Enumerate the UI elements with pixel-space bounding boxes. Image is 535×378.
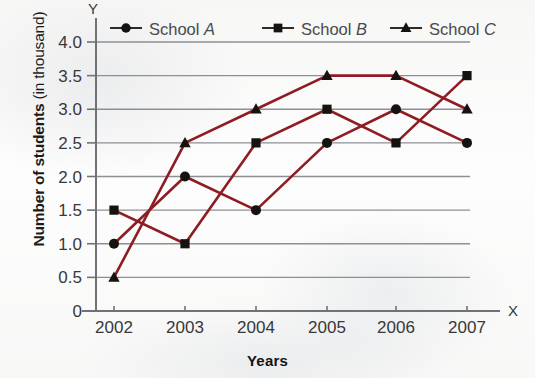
y-tick-label: 1.5 bbox=[58, 201, 82, 220]
legend-label-series-letter: C bbox=[484, 20, 496, 38]
legend-label: School A bbox=[149, 20, 215, 38]
x-axis-letter: X bbox=[508, 302, 518, 319]
legend-label-prefix: School bbox=[429, 20, 484, 38]
marker-triangle bbox=[108, 271, 119, 281]
marker-square bbox=[274, 24, 283, 33]
marker-square bbox=[462, 71, 471, 80]
y-axis-title-regular: (in thousand) bbox=[30, 12, 47, 100]
legend-item-square: School B bbox=[262, 20, 367, 38]
marker-circle bbox=[109, 239, 119, 249]
legend-label: School B bbox=[301, 20, 367, 38]
legend-item-circle: School A bbox=[110, 20, 215, 38]
x-tick-label: 2005 bbox=[308, 318, 346, 337]
line-chart: 00.51.01.52.02.53.03.54.0 20022003200420… bbox=[0, 0, 535, 378]
legend-label-prefix: School bbox=[301, 20, 356, 38]
data-series bbox=[108, 70, 472, 282]
marker-square bbox=[251, 138, 260, 147]
chart-legend: School ASchool BSchool C bbox=[110, 20, 496, 38]
x-axis-tick-labels: 200220032004200520062007 bbox=[95, 318, 486, 337]
marker-square bbox=[180, 239, 189, 248]
legend-item-triangle: School C bbox=[390, 20, 496, 38]
legend-label: School C bbox=[429, 20, 496, 38]
series-line bbox=[114, 76, 467, 244]
chart-canvas: 00.51.01.52.02.53.03.54.0 20022003200420… bbox=[0, 0, 535, 378]
y-tick-label: 2.5 bbox=[58, 134, 82, 153]
y-axis-title: Number of students (in thousand) bbox=[30, 0, 48, 264]
legend-label-prefix: School bbox=[149, 20, 204, 38]
x-axis-title: Years bbox=[0, 352, 535, 369]
y-axis-tick-labels: 00.51.01.52.02.53.03.54.0 bbox=[58, 33, 82, 321]
x-tick-label: 2004 bbox=[237, 318, 275, 337]
gridlines bbox=[96, 42, 470, 277]
marker-square bbox=[322, 105, 331, 114]
y-tick-label: 0.5 bbox=[58, 268, 82, 287]
marker-circle bbox=[121, 23, 131, 33]
y-axis-letter: Y bbox=[88, 0, 98, 17]
x-tick-label: 2002 bbox=[95, 318, 133, 337]
axis-letters: YX bbox=[88, 0, 518, 319]
legend-label-series-letter: A bbox=[203, 20, 215, 38]
axes bbox=[82, 18, 500, 311]
marker-square bbox=[391, 138, 400, 147]
x-tick-label: 2003 bbox=[166, 318, 204, 337]
marker-square bbox=[109, 206, 118, 215]
marker-circle bbox=[251, 205, 261, 215]
series-square bbox=[114, 76, 467, 244]
legend-label-series-letter: B bbox=[356, 20, 367, 38]
y-tick-label: 4.0 bbox=[58, 33, 82, 52]
y-tick-label: 0 bbox=[73, 302, 82, 321]
y-tick-label: 3.5 bbox=[58, 67, 82, 86]
marker-circle bbox=[322, 138, 332, 148]
x-tick-label: 2007 bbox=[448, 318, 486, 337]
y-tick-label: 2.0 bbox=[58, 168, 82, 187]
marker-circle bbox=[391, 104, 401, 114]
marker-circle bbox=[462, 138, 472, 148]
y-axis-title-bold: Number of students bbox=[30, 104, 47, 247]
marker-circle bbox=[180, 172, 190, 182]
series-markers-square bbox=[109, 71, 471, 248]
x-tick-label: 2006 bbox=[377, 318, 415, 337]
y-tick-label: 3.0 bbox=[58, 100, 82, 119]
y-tick-label: 1.0 bbox=[58, 235, 82, 254]
